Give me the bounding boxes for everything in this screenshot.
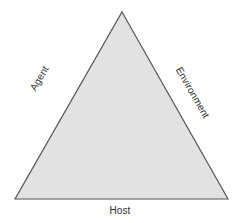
triangle-label-host: Host [0, 206, 240, 216]
triangle-diagram: Agent Environment Host [0, 0, 240, 223]
